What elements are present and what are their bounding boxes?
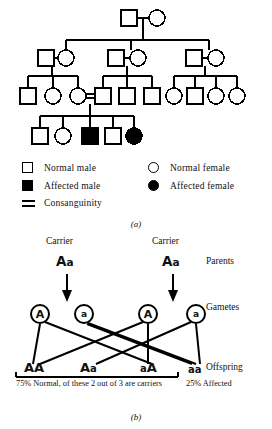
- pedigree-node-IV-5: [126, 128, 142, 144]
- note-affected-ratio: 25% Affected: [186, 379, 232, 388]
- legend-label: Normal male: [44, 163, 96, 173]
- pedigree-node-III-8: [187, 88, 203, 104]
- legend-label: Affected female: [170, 181, 234, 191]
- cross-diagram: Carrier Carrier Aa Aa Parents Gametes Of…: [0, 236, 272, 412]
- pedigree-node-II-6: [208, 50, 224, 66]
- pedigree-node-II-3: [108, 50, 124, 66]
- legend-item-consanguinity: Consanguinity: [22, 198, 102, 208]
- double-line-icon: [22, 200, 35, 207]
- parent-right-genotype: Aa: [162, 253, 180, 269]
- allele-2: A: [147, 360, 157, 375]
- pedigree-node-III-6: [144, 88, 160, 104]
- row-label-offspring: Offspring: [206, 362, 243, 372]
- arrow-head-left: [62, 290, 72, 302]
- legend-label: Normal female: [170, 163, 230, 173]
- pedigree-node-III-2: [45, 88, 61, 104]
- square-filled-icon: [22, 180, 35, 191]
- cross-line-a2-aa: [196, 324, 200, 364]
- note-normal-ratio: 75% Normal, of these 2 out of 3 are carr…: [16, 379, 176, 388]
- pedigree-node-IV-2: [55, 128, 71, 144]
- pedigree-node-IV-1: [32, 128, 48, 144]
- allele-recessive: a: [66, 256, 73, 268]
- panel-a-caption: (a): [0, 219, 272, 229]
- pedigree-node-I-1: [121, 10, 137, 26]
- row-label-parents: Parents: [206, 256, 234, 266]
- gamete-circle-A-left: A: [30, 304, 50, 324]
- parent-right-title: Carrier: [152, 236, 179, 246]
- legend-item-affected-male: Affected male: [22, 180, 101, 191]
- allele-dominant: A: [162, 253, 172, 269]
- legend-label: Affected male: [44, 181, 101, 191]
- offspring-genotype-aa: aa: [188, 361, 202, 376]
- pedigree-node-II-4: [130, 50, 146, 66]
- legend-item-affected-female: Affected female: [148, 180, 234, 191]
- arrow-head-right: [168, 290, 178, 302]
- pedigree-node-III-5: [119, 88, 135, 104]
- allele-1: A: [24, 360, 34, 375]
- pedigree-node-III-4: [95, 88, 111, 104]
- allele-1: a: [140, 363, 147, 374]
- allele-2: A: [34, 360, 44, 375]
- legend-item-normal-female: Normal female: [148, 162, 230, 173]
- legend-label: Consanguinity: [44, 198, 102, 208]
- pedigree-chart: [0, 0, 272, 160]
- allele-2: a: [90, 363, 97, 374]
- allele-dominant: A: [56, 253, 66, 269]
- pedigree-node-III-1: [20, 88, 36, 104]
- allele-1: A: [80, 360, 90, 375]
- parent-left-genotype: Aa: [56, 253, 74, 269]
- allele-recessive: a: [172, 256, 179, 268]
- pedigree-node-II-5: [186, 50, 202, 66]
- offspring-genotype-AA: AA: [24, 360, 44, 375]
- panel-b-caption: (b): [0, 412, 272, 422]
- offspring-genotype-Aa: Aa: [80, 360, 97, 375]
- square-open-icon: [22, 162, 35, 173]
- pedigree-node-IV-3: [82, 128, 98, 144]
- cross-line-A2-AA: [40, 322, 143, 364]
- pedigree-node-I-2: [149, 10, 165, 26]
- legend: Normal male Normal female Affected male …: [0, 160, 272, 222]
- circle-filled-icon: [148, 180, 161, 191]
- pedigree-node-IV-4: [105, 128, 121, 144]
- offspring-genotype-aA: aA: [140, 360, 157, 375]
- allele-2: a: [195, 364, 202, 375]
- circle-open-icon: [148, 162, 161, 173]
- pedigree-node-II-2: [58, 50, 74, 66]
- pedigree-node-III-10: [229, 88, 245, 104]
- allele-1: a: [188, 364, 195, 375]
- gamete-circle-a-right: a: [186, 304, 206, 324]
- legend-item-normal-male: Normal male: [22, 162, 96, 173]
- cross-line-A1-AA: [33, 324, 40, 364]
- row-label-gametes: Gametes: [206, 302, 239, 312]
- pedigree-node-II-1: [38, 50, 54, 66]
- parent-left-title: Carrier: [46, 236, 73, 246]
- pedigree-node-III-3: [70, 88, 86, 104]
- gamete-circle-A-right: A: [138, 304, 158, 324]
- pedigree-node-III-7: [166, 88, 182, 104]
- gamete-circle-a-left: a: [74, 304, 94, 324]
- pedigree-node-III-9: [208, 88, 224, 104]
